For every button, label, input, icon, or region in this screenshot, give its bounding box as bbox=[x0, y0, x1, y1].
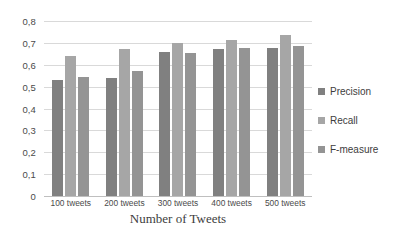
y-axis-tick-label: 0,2 bbox=[22, 147, 36, 158]
bar-group bbox=[159, 21, 196, 196]
bar-group bbox=[213, 21, 250, 196]
y-axis-tick-label: 0,4 bbox=[22, 103, 36, 114]
bar bbox=[185, 53, 196, 196]
bar bbox=[280, 35, 291, 196]
chart-legend: PrecisionRecallF-measure bbox=[318, 86, 378, 155]
y-axis-tick-label: 0,5 bbox=[22, 81, 36, 92]
y-axis-tick-label: 0 bbox=[31, 191, 36, 202]
legend-item[interactable]: Precision bbox=[318, 86, 378, 97]
bar bbox=[213, 49, 224, 196]
bar bbox=[159, 52, 170, 196]
legend-label: Recall bbox=[330, 115, 358, 126]
bar bbox=[119, 49, 130, 196]
bar-group bbox=[267, 21, 304, 196]
legend-label: Precision bbox=[330, 86, 371, 97]
legend-item[interactable]: F-measure bbox=[318, 144, 378, 155]
bar bbox=[226, 40, 237, 196]
legend-swatch-icon bbox=[318, 88, 325, 95]
legend-label: F-measure bbox=[330, 144, 378, 155]
x-axis-tick-label: 200 tweets bbox=[98, 198, 150, 208]
bar bbox=[132, 71, 143, 196]
x-axis-tick-label: 400 tweets bbox=[206, 198, 258, 208]
y-axis-tick-label: 0,1 bbox=[22, 169, 36, 180]
y-axis-tick-label: 0,6 bbox=[22, 59, 36, 70]
bar-group bbox=[106, 21, 143, 196]
y-axis-tick-label: 0,7 bbox=[22, 37, 36, 48]
axis-baseline bbox=[44, 196, 312, 197]
bars-layer bbox=[44, 21, 312, 196]
bar bbox=[267, 48, 278, 196]
legend-item[interactable]: Recall bbox=[318, 115, 378, 126]
legend-swatch-icon bbox=[318, 117, 325, 124]
bar-chart-figure: 0,80,70,60,50,40,30,20,10 100 tweets200 … bbox=[0, 0, 400, 241]
bar bbox=[293, 46, 304, 196]
bar bbox=[106, 78, 117, 196]
x-axis-tick-label: 500 tweets bbox=[259, 198, 311, 208]
legend-swatch-icon bbox=[318, 146, 325, 153]
y-axis: 0,80,70,60,50,40,30,20,10 bbox=[0, 21, 40, 196]
bar bbox=[172, 43, 183, 196]
x-axis-title: Number of Tweets bbox=[44, 211, 312, 227]
x-axis-tick-label: 100 tweets bbox=[45, 198, 97, 208]
x-axis-tick-label: 300 tweets bbox=[152, 198, 204, 208]
bar bbox=[239, 48, 250, 196]
x-axis: 100 tweets200 tweets300 tweets400 tweets… bbox=[44, 198, 312, 208]
bar bbox=[65, 56, 76, 196]
y-axis-tick-label: 0,8 bbox=[22, 16, 36, 27]
bar bbox=[78, 77, 89, 196]
y-axis-tick-label: 0,3 bbox=[22, 125, 36, 136]
bar-group bbox=[52, 21, 89, 196]
bar bbox=[52, 80, 63, 196]
